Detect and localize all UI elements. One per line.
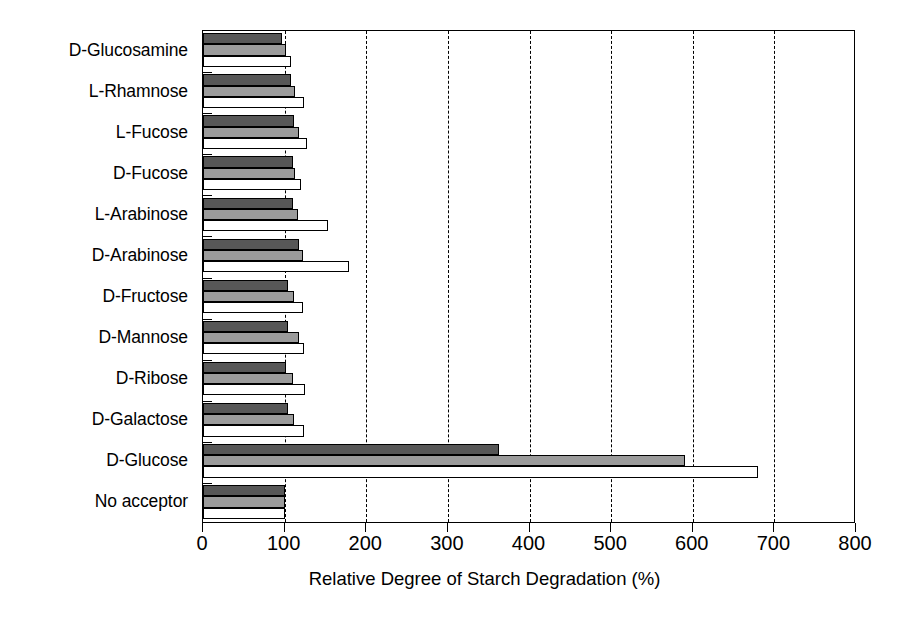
y-axis-tick bbox=[203, 72, 212, 73]
bar bbox=[203, 261, 349, 272]
y-axis-tick bbox=[203, 236, 212, 237]
y-axis-label-d-fucose: D-Fucose bbox=[113, 165, 188, 183]
x-axis-tick-label-400: 400 bbox=[512, 533, 545, 553]
bar bbox=[203, 384, 305, 395]
bar bbox=[203, 156, 293, 167]
bar bbox=[203, 115, 294, 126]
x-axis-tick-label-0: 0 bbox=[196, 533, 207, 553]
bar bbox=[203, 86, 295, 97]
y-axis-label-no-acceptor: No acceptor bbox=[95, 493, 188, 511]
bar bbox=[203, 209, 298, 220]
y-axis-label-d-galactose: D-Galactose bbox=[92, 411, 188, 429]
x-axis-tick-600 bbox=[692, 523, 693, 532]
y-axis-tick bbox=[203, 483, 212, 484]
bar bbox=[203, 74, 291, 85]
x-axis-tick-label-100: 100 bbox=[267, 533, 300, 553]
y-axis-label-d-arabinose: D-Arabinose bbox=[92, 247, 188, 265]
x-axis-tick-500 bbox=[610, 523, 611, 532]
x-axis-tick-label-300: 300 bbox=[430, 533, 463, 553]
bar bbox=[203, 302, 303, 313]
bar bbox=[203, 403, 288, 414]
gridline-600 bbox=[693, 31, 694, 522]
y-axis-label-d-glucose: D-Glucose bbox=[106, 452, 188, 470]
bar-chart-figure: D-GlucosamineL-RhamnoseL-FucoseD-FucoseL… bbox=[0, 0, 909, 617]
y-axis-tick bbox=[203, 113, 212, 114]
bar bbox=[203, 362, 286, 373]
x-axis-title-text: Relative Degree of Starch Degradation (%… bbox=[249, 570, 661, 589]
gridline-400 bbox=[530, 31, 531, 522]
y-axis-label-l-fucose: L-Fucose bbox=[116, 124, 188, 142]
bar bbox=[203, 425, 304, 436]
bar bbox=[203, 127, 299, 138]
bar bbox=[203, 97, 304, 108]
x-axis-tick-label-700: 700 bbox=[757, 533, 790, 553]
bar bbox=[203, 508, 285, 519]
y-axis-tick bbox=[203, 195, 212, 196]
x-axis-tick-100 bbox=[284, 523, 285, 532]
y-axis-tick bbox=[203, 319, 212, 320]
x-axis-tick-label-800: 800 bbox=[838, 533, 871, 553]
y-axis-label-l-rhamnose: L-Rhamnose bbox=[89, 83, 188, 101]
bar bbox=[203, 44, 286, 55]
x-axis-tick-400 bbox=[529, 523, 530, 532]
x-axis-tick-200 bbox=[365, 523, 366, 532]
y-axis-category-labels: D-GlucosamineL-RhamnoseL-FucoseD-FucoseL… bbox=[0, 30, 193, 523]
bar bbox=[203, 56, 291, 67]
x-axis-tick-label-600: 600 bbox=[675, 533, 708, 553]
x-axis-tick-700 bbox=[773, 523, 774, 532]
bar bbox=[203, 168, 295, 179]
gridline-700 bbox=[774, 31, 775, 522]
x-axis-tick-0 bbox=[202, 523, 203, 532]
bar bbox=[203, 280, 288, 291]
x-axis-tick-800 bbox=[855, 523, 856, 532]
y-axis-tick bbox=[203, 442, 212, 443]
y-axis-label-d-mannose: D-Mannose bbox=[98, 329, 188, 347]
gridline-500 bbox=[611, 31, 612, 522]
y-axis-label-d-fructose: D-Fructose bbox=[102, 288, 188, 306]
x-axis-title: Relative Degree of Starch Degradation (%… bbox=[0, 570, 909, 589]
bar bbox=[203, 496, 285, 507]
bar bbox=[203, 250, 303, 261]
bar bbox=[203, 179, 301, 190]
plot-area bbox=[202, 30, 855, 523]
y-axis-tick bbox=[203, 401, 212, 402]
y-axis-tick bbox=[203, 360, 212, 361]
bar bbox=[203, 138, 307, 149]
bar bbox=[203, 198, 293, 209]
x-axis-tick-labels: 0100200300400500600700800 bbox=[0, 533, 909, 563]
y-axis-tick bbox=[203, 154, 212, 155]
bar bbox=[203, 239, 299, 250]
bar bbox=[203, 485, 285, 496]
x-axis-tick-label-500: 500 bbox=[593, 533, 626, 553]
bar bbox=[203, 33, 282, 44]
bar bbox=[203, 414, 294, 425]
bar bbox=[203, 291, 294, 302]
bar bbox=[203, 332, 299, 343]
bar bbox=[203, 220, 328, 231]
y-axis-label-d-ribose: D-Ribose bbox=[116, 370, 188, 388]
y-axis-label-d-glucosamine: D-Glucosamine bbox=[69, 42, 188, 60]
y-axis-tick bbox=[203, 278, 212, 279]
bar bbox=[203, 466, 758, 477]
bar bbox=[203, 321, 288, 332]
bar bbox=[203, 444, 499, 455]
x-axis-tick-marks bbox=[202, 523, 855, 532]
x-axis-tick-label-200: 200 bbox=[349, 533, 382, 553]
bar bbox=[203, 343, 304, 354]
x-axis-tick-300 bbox=[447, 523, 448, 532]
y-axis-label-l-arabinose: L-Arabinose bbox=[95, 206, 188, 224]
bar bbox=[203, 373, 293, 384]
bar bbox=[203, 455, 685, 466]
